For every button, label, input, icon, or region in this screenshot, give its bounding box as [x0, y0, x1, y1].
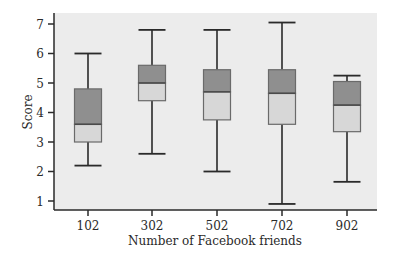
x-tick-label: 102: [77, 219, 100, 233]
y-tick-label: 3: [36, 136, 44, 150]
box-lower-half: [139, 83, 166, 101]
y-axis-ticks: 1234567: [36, 18, 54, 209]
box-lower-half: [204, 92, 231, 120]
y-tick-label: 6: [36, 47, 44, 61]
box-plot-chart: 1234567 102302502702902 Number of Facebo…: [0, 0, 399, 258]
box-lower-half: [334, 105, 361, 132]
box-upper-half: [139, 65, 166, 83]
box-lower-half: [75, 124, 102, 142]
x-tick-label: 302: [141, 219, 164, 233]
y-tick-label: 5: [36, 77, 44, 91]
box-upper-half: [334, 82, 361, 106]
x-axis-title: Number of Facebook friends: [128, 234, 302, 248]
box-lower-half: [269, 93, 296, 124]
x-tick-label: 902: [336, 219, 359, 233]
x-tick-label: 702: [271, 219, 294, 233]
box-upper-half: [204, 70, 231, 92]
box-upper-half: [269, 70, 296, 94]
x-axis-ticks: 102302502702902: [77, 210, 359, 233]
y-axis-title: Score: [21, 94, 35, 129]
y-tick-label: 7: [36, 18, 44, 32]
y-tick-label: 1: [36, 195, 44, 209]
y-tick-label: 2: [36, 165, 44, 179]
y-tick-label: 4: [36, 106, 44, 120]
box-upper-half: [75, 89, 102, 124]
x-tick-label: 502: [206, 219, 229, 233]
